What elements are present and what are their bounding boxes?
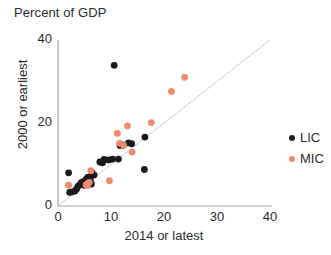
data-point-mic xyxy=(129,149,136,156)
data-point-mic xyxy=(87,167,94,174)
legend-dot-mic xyxy=(289,156,295,162)
data-point-lic xyxy=(128,140,135,147)
legend-label-lic: LIC xyxy=(300,131,320,144)
data-point-mic xyxy=(114,130,121,137)
data-point-mic xyxy=(120,142,127,149)
data-point-mic xyxy=(106,177,113,184)
data-points-group xyxy=(65,62,188,196)
legend-label-mic: MIC xyxy=(300,152,324,165)
data-point-mic xyxy=(86,179,93,186)
data-point-lic xyxy=(141,166,148,173)
legend: LIC MIC xyxy=(289,127,324,169)
legend-item-mic[interactable]: MIC xyxy=(289,148,324,169)
legend-item-lic[interactable]: LIC xyxy=(289,127,324,148)
data-point-lic xyxy=(66,189,73,196)
data-point-lic xyxy=(115,156,122,163)
data-point-lic xyxy=(73,186,80,193)
plot-canvas xyxy=(0,0,331,255)
data-point-mic xyxy=(65,182,72,189)
scatter-plot-figure: Percent of GDP 2000 or earliest 2014 or … xyxy=(0,0,331,255)
data-point-lic xyxy=(65,169,72,176)
data-point-mic xyxy=(148,119,155,126)
data-point-lic xyxy=(105,157,112,164)
data-point-lic xyxy=(142,134,149,141)
data-point-lic xyxy=(111,62,118,69)
data-point-lic xyxy=(99,159,106,166)
data-point-mic xyxy=(181,74,188,81)
data-point-mic xyxy=(124,123,131,130)
legend-dot-lic xyxy=(289,135,295,141)
data-point-mic xyxy=(168,88,175,95)
